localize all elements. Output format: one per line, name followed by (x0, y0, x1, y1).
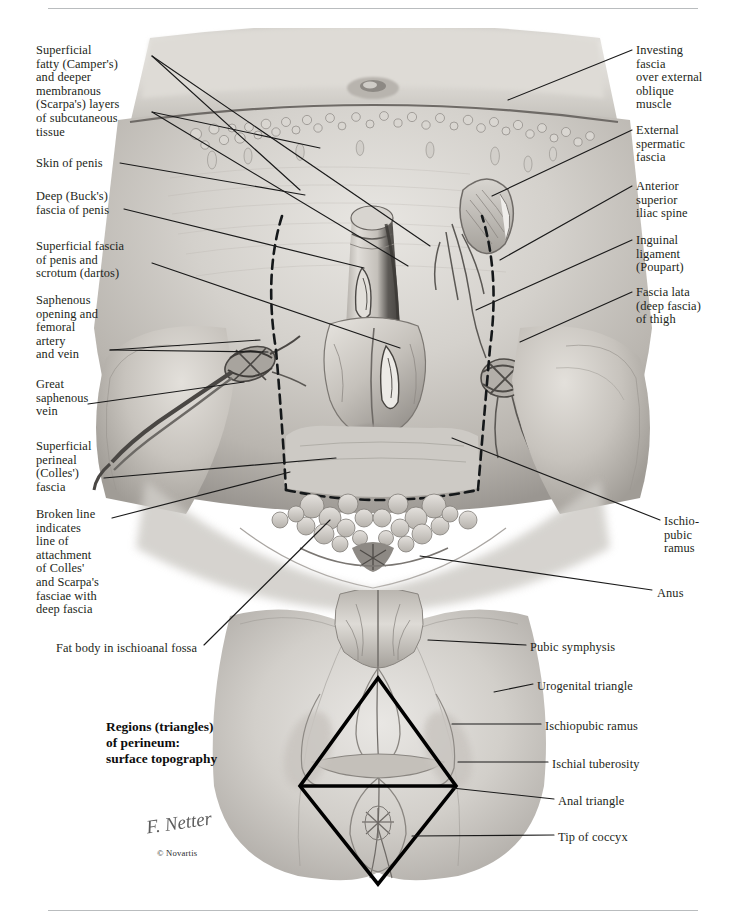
label-ischiopubic-ramus-upper: Ischio- pubic ramus (664, 515, 699, 556)
label-saphenous-opening: Saphenous opening and femoral artery and… (36, 294, 98, 362)
lower-surface-topography-illustration (200, 590, 560, 890)
label-skin-of-penis: Skin of penis (36, 157, 103, 171)
label-bucks-fascia: Deep (Buck's) fascia of penis (36, 190, 109, 217)
label-pubic-symphysis: Pubic symphysis (530, 641, 615, 655)
label-dartos-fascia: Superficial fascia of penis and scrotum … (36, 240, 124, 281)
top-rule (48, 8, 698, 9)
label-fat-body-ischioanal-fossa: Fat body in ischioanal fossa (56, 642, 197, 656)
label-fascia-lata: Fascia lata (deep fascia) of thigh (636, 286, 701, 327)
label-anal-triangle: Anal triangle (558, 795, 624, 809)
label-investing-fascia: Investing fascia over external oblique m… (636, 44, 702, 112)
label-camper-scarpa: Superficial fatty (Camper's) and deeper … (36, 44, 119, 139)
label-broken-line: Broken line indicates line of attachment… (36, 508, 99, 617)
anatomy-plate: Superficial fatty (Camper's) and deeper … (0, 0, 746, 923)
artist-signature: F. Netter (145, 808, 214, 839)
label-ischiopubic-ramus-lower: Ischiopubic ramus (545, 720, 638, 734)
label-colles-fascia: Superficial perineal (Colles') fascia (36, 440, 91, 494)
label-inguinal-ligament: Inguinal ligament (Poupart) (636, 234, 684, 275)
bottom-rule (48, 910, 698, 911)
label-urogenital-triangle: Urogenital triangle (537, 680, 633, 694)
plate-title: Regions (triangles) of perineum: surface… (106, 719, 217, 767)
label-external-spermatic-fascia: External spermatic fascia (636, 124, 685, 165)
label-anterior-superior-iliac-spine: Anterior superior iliac spine (636, 180, 688, 221)
copyright-notice: © Novartis (157, 848, 197, 858)
label-ischial-tuberosity: Ischial tuberosity (552, 758, 639, 772)
label-anus: Anus (657, 587, 684, 601)
label-tip-of-coccyx: Tip of coccyx (558, 831, 628, 845)
label-great-saphenous-vein: Great saphenous vein (36, 378, 89, 419)
